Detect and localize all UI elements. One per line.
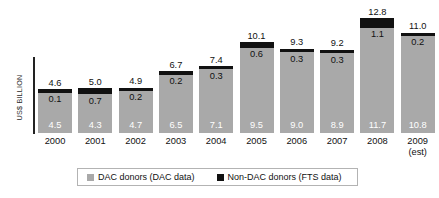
x-axis-tick-labels: 2000200120022003200420052006200720082009… [36,136,439,164]
bar-value-label-dac: 10.8 [401,120,435,130]
y-axis-label: US$ BILLION [13,55,27,140]
bar-total-label: 9.2 [316,38,358,48]
x-axis-tick-label: 2004 [194,136,238,147]
x-axis-tick-label: 2003 [154,136,198,147]
bar-total-label: 6.7 [155,60,197,70]
bar-total-label: 12.8 [356,7,398,17]
y-axis-line [33,57,35,134]
x-axis-tick-label: 2007 [315,136,359,147]
bar-segment-dac: 11.7 [360,28,394,133]
bar-group: 9.50.610.1 [240,4,274,135]
bar-group: 10.80.211.0 [401,4,435,135]
bar-value-label-dac: 6.5 [159,120,193,130]
x-axis-tick-label: 2006 [275,136,319,147]
legend-swatch-dac-icon [87,174,94,181]
bar-value-label-nondac: 1.1 [360,29,394,39]
bar-value-label-nondac: 0.3 [199,71,233,81]
legend-label-dac: DAC donors (DAC data) [98,172,195,182]
x-axis-tick-label: 2000 [33,136,77,147]
bar-value-label-dac: 7.1 [199,120,233,130]
bar-total-label: 7.4 [195,55,237,65]
x-axis-tick-label: 2009(est) [396,136,439,158]
bar-segment-dac: 10.8 [401,36,435,133]
bar-segment-dac: 9.0 [280,52,314,133]
x-axis-tick-label: 2008 [355,136,399,147]
bar-group: 4.70.24.9 [119,4,153,135]
bar-group: 4.30.75.0 [78,4,112,135]
plot-area: 4.50.14.64.30.75.04.70.24.96.50.26.77.10… [36,4,439,135]
x-axis-tick-label: 2001 [73,136,117,147]
bar-value-label-dac: 9.0 [280,120,314,130]
bar-group: 9.00.39.3 [280,4,314,135]
bar-group: 11.71.112.8 [360,4,394,135]
legend-item-dac: DAC donors (DAC data) [87,172,195,182]
bar-total-label: 4.9 [115,76,157,86]
y-axis-label-text: US$ BILLION [16,75,25,121]
legend-swatch-nondac-icon [217,174,224,181]
bar-value-label-dac: 4.3 [78,120,112,130]
bar-segment-nondac [360,18,394,28]
chart-legend: DAC donors (DAC data) Non-DAC donors (FT… [77,168,358,186]
stacked-bar-chart: US$ BILLION 4.50.14.64.30.75.04.70.24.96… [0,0,439,198]
stacked-bar: 10.8 [401,33,435,133]
bar-total-label: 4.6 [34,78,76,88]
legend-label-nondac: Non-DAC donors (FTS data) [228,172,342,182]
bar-value-label-nondac: 0.3 [280,54,314,64]
bar-group: 6.50.26.7 [159,4,193,135]
x-axis-tick-sublabel: (est) [396,147,439,158]
bar-group: 8.90.39.2 [320,4,354,135]
bar-value-label-nondac: 0.2 [401,37,435,47]
bar-value-label-nondac: 0.2 [159,76,193,86]
bar-segment-dac: 8.9 [320,53,354,133]
bar-value-label-nondac: 0.6 [240,49,274,59]
bar-total-label: 5.0 [74,77,116,87]
x-axis-tick-label: 2005 [235,136,279,147]
stacked-bar: 4.3 [78,88,112,133]
x-axis-tick-label: 2002 [114,136,158,147]
bar-group: 7.10.37.4 [199,4,233,135]
bar-segment-dac: 9.5 [240,48,274,133]
bar-total-label: 9.3 [276,37,318,47]
bar-value-label-dac: 11.7 [360,120,394,130]
bar-value-label-nondac: 0.2 [119,92,153,102]
bar-value-label-dac: 8.9 [320,120,354,130]
bar-total-label: 11.0 [397,21,439,31]
bar-value-label-dac: 4.7 [119,120,153,130]
bar-group: 4.50.14.6 [38,4,72,135]
bar-value-label-dac: 4.5 [38,120,72,130]
bar-total-label: 10.1 [236,31,278,41]
bar-value-label-nondac: 0.3 [320,55,354,65]
legend-item-nondac: Non-DAC donors (FTS data) [217,172,342,182]
bar-value-label-nondac: 0.1 [38,94,72,104]
bar-value-label-nondac: 0.7 [78,96,112,106]
bar-value-label-dac: 9.5 [240,120,274,130]
